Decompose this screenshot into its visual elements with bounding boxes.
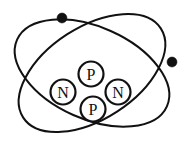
atom-diagram-canvas: N P N P	[0, 0, 186, 149]
atom-diagram-figure: N P N P	[0, 0, 186, 149]
electron-two-dot	[167, 57, 177, 67]
nucleon-proton-top: P	[79, 62, 104, 87]
nucleon-neutron-right: N	[106, 80, 131, 105]
proton-bottom-label: P	[89, 101, 98, 118]
nucleon-proton-bottom: P	[81, 97, 106, 122]
electron-one-dot	[57, 13, 67, 23]
proton-top-label: P	[87, 66, 96, 83]
nucleon-neutron-left: N	[51, 80, 76, 105]
nucleus-group: N P N P	[51, 62, 131, 122]
neutron-right-label: N	[112, 84, 124, 101]
neutron-left-label: N	[57, 84, 69, 101]
